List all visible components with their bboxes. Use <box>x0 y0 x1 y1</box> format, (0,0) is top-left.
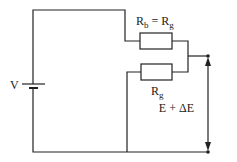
circuit-diagram: V Rb = Rg Rg E + ΔE <box>0 0 237 162</box>
label-r: R <box>151 84 159 98</box>
resistor-rb-label: Rb = Rg <box>136 15 174 27</box>
rg-left-wire <box>127 72 141 152</box>
source-label: V <box>10 79 19 91</box>
circuit-wires <box>0 0 237 162</box>
bottom-wire <box>33 88 208 152</box>
resistor-rg-label: Rg <box>151 85 164 97</box>
junction-wire <box>172 41 188 72</box>
top-wire <box>33 10 140 84</box>
label-sub-g: g <box>159 90 164 100</box>
label-sub-g: g <box>169 20 174 30</box>
label-r: R <box>136 14 144 28</box>
label-sub-b: b <box>144 20 149 30</box>
output-label: E + ΔE <box>159 102 194 114</box>
arrow-down-icon <box>205 142 211 151</box>
label-eq: = R <box>149 14 170 28</box>
resistor-rb <box>140 33 172 49</box>
resistor-rg <box>141 64 172 80</box>
arrow-up-icon <box>205 57 211 66</box>
